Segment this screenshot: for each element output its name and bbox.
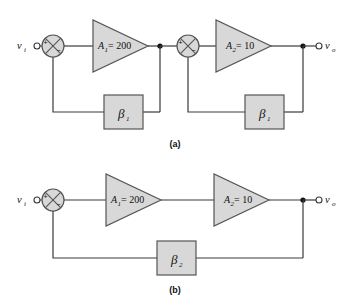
summing-junction-a1-plus-sign: + (43, 39, 47, 46)
input-label-b: v (17, 194, 22, 205)
feedback-block-beta1-stage1-symbol: β (117, 106, 125, 121)
amplifier-a2-gain: = 10 (236, 40, 254, 51)
summing-junction-b1-plus-sign: + (43, 193, 47, 200)
feedback-block-beta2-subscript: 2 (179, 261, 183, 269)
caption-a: (a) (170, 139, 181, 149)
input-terminal-a (34, 43, 40, 49)
amplifier-a1-gain: = 200 (108, 40, 131, 51)
summing-junction-b1: + − (42, 189, 64, 211)
summing-junction-a1-minus-sign: − (56, 47, 60, 54)
output-label-a: v (325, 40, 330, 51)
input-terminal-b (34, 197, 40, 203)
amplifier-b2-gain: = 10 (234, 194, 252, 205)
input-label-a-subscript: i (24, 46, 26, 54)
output-label-b: v (325, 194, 330, 205)
feedback-block-beta1-stage2-subscript: 1 (267, 115, 271, 123)
summing-junction-b1-minus-sign: − (56, 201, 60, 208)
summing-junction-a2-plus-sign: + (178, 39, 182, 46)
feedback-block-beta1-stage2-symbol: β (258, 106, 266, 121)
wire-feedback-b-to-summer (53, 211, 157, 258)
summing-junction-a2: + − (177, 35, 199, 57)
input-label-b-subscript: i (24, 200, 26, 208)
diagram-a: v i + − A 1 = 200 (17, 20, 336, 149)
input-label-a: v (17, 40, 22, 51)
output-label-b-subscript: o (332, 200, 336, 208)
amplifier-b1-gain: = 200 (121, 194, 144, 205)
summing-junction-a1: + − (42, 35, 64, 57)
feedback-block-beta2-symbol: β (170, 252, 178, 267)
output-terminal-a (316, 43, 322, 49)
feedback-amplifier-figure: v i + − A 1 = 200 (0, 0, 351, 307)
caption-b: (b) (169, 285, 181, 295)
output-terminal-b (316, 197, 322, 203)
summing-junction-a2-minus-sign: − (191, 47, 195, 54)
feedback-block-beta1-stage1-subscript: 1 (126, 115, 130, 123)
output-label-a-subscript: o (332, 46, 336, 54)
diagram-b: v i + − A 1 = 200 A 2 = 1 (17, 174, 336, 295)
